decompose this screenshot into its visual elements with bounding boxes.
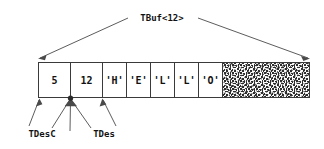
pointer-labels: TDesC TDes	[28, 129, 114, 139]
pointer-junction-dot	[68, 96, 73, 101]
buffer-cell-label: 'E'	[129, 75, 147, 86]
buffer-diagram: TBuf<12> 5 12 'H' 'E' 'L'	[0, 0, 324, 149]
pointer-arrow-tdesc-arrowhead	[36, 99, 42, 107]
diagram-root: TBuf<12> 5 12 'H' 'E' 'L'	[0, 0, 324, 149]
buffer-cell-label: 'O'	[201, 75, 219, 86]
pointer-label-tdes: TDes	[93, 129, 115, 139]
pointer-label-tdesc: TDesC	[28, 129, 55, 139]
title-leader-right	[198, 18, 308, 58]
title-leader-left	[40, 18, 128, 58]
title-leader-left-arrowhead	[38, 55, 47, 60]
buffer-cells: 5 12 'H' 'E' 'L' 'L' 'O'	[39, 63, 310, 98]
buffer-cell-label: 5	[51, 75, 57, 86]
buffer-cell-label: 'L'	[153, 75, 171, 86]
pointer-arrows	[29, 96, 116, 131]
buffer-title-group: TBuf<12>	[38, 13, 310, 61]
buffer-cell-label: 12	[80, 75, 92, 86]
buffer-unused-region-texture	[223, 63, 310, 98]
buffer-title: TBuf<12>	[140, 13, 184, 23]
buffer-cell-label: 'H'	[105, 75, 123, 86]
buffer-cell-label: 'L'	[177, 75, 195, 86]
